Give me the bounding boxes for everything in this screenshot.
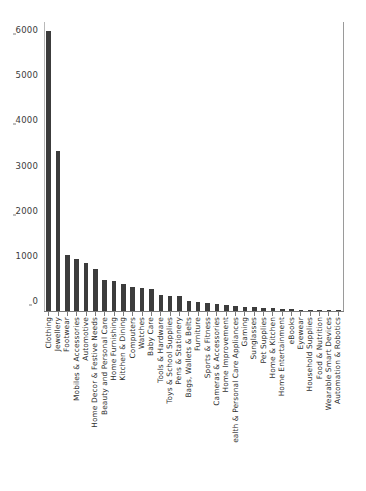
x-tick-mark	[170, 312, 171, 316]
x-tick	[91, 312, 100, 316]
x-tick-mark	[48, 312, 49, 316]
x-tick-label: Home & Kitchen	[269, 317, 276, 378]
bar	[252, 307, 257, 311]
bar	[308, 310, 313, 311]
x-label-slot: Pens & Stationery	[175, 317, 184, 487]
x-label-slot: Baby Care	[147, 317, 156, 487]
bar	[261, 308, 266, 311]
bar	[112, 281, 117, 311]
bar-item	[109, 22, 118, 311]
x-tick	[156, 312, 165, 316]
x-tick	[81, 312, 90, 316]
x-tick-label: Computers	[129, 317, 136, 359]
x-tick	[231, 312, 240, 316]
bar	[187, 301, 192, 311]
y-tick-label: 6000	[16, 25, 44, 35]
plot-area: 0100020003000400050006000	[44, 22, 343, 311]
x-tick	[203, 312, 212, 316]
x-tick-label: Baby Care	[148, 317, 155, 356]
x-tick-label: Bags, Wallets & Belts	[185, 317, 192, 398]
bar-item	[287, 22, 296, 311]
x-tick-label: Gaming	[241, 317, 248, 346]
x-tick-mark	[188, 312, 189, 316]
bar-item	[334, 22, 343, 311]
bar	[168, 296, 173, 311]
x-tick	[147, 312, 156, 316]
x-tick	[184, 312, 193, 316]
x-tick-label: eBooks	[288, 317, 295, 344]
bar	[289, 309, 294, 311]
x-tick-mark	[300, 312, 301, 316]
x-tick	[137, 312, 146, 316]
x-tick-label: Toys & School Supplies	[166, 317, 173, 404]
x-tick	[100, 312, 109, 316]
x-tick	[334, 312, 343, 316]
x-tick	[278, 312, 287, 316]
y-tick-mark	[29, 305, 32, 306]
x-tick-mark	[207, 312, 208, 316]
bar-item	[156, 22, 165, 311]
x-tick	[63, 312, 72, 316]
bar	[121, 284, 126, 311]
bar	[149, 289, 154, 311]
bar	[140, 288, 145, 311]
x-tick	[306, 312, 315, 316]
x-tick-mark	[160, 312, 161, 316]
bar	[224, 305, 229, 311]
y-tick-label: 2000	[16, 206, 44, 216]
x-label-slot: Home Improvement	[222, 317, 231, 487]
x-tick-label: Home Entertainment	[279, 317, 286, 396]
bar	[336, 310, 341, 311]
y-tick-label: 4000	[16, 115, 44, 125]
bar-item	[119, 22, 128, 311]
x-tick-mark	[132, 312, 133, 316]
x-tick-mark	[226, 312, 227, 316]
bar-item	[278, 22, 287, 311]
x-tick-label: Home Improvement	[223, 317, 230, 393]
x-tick-mark	[254, 312, 255, 316]
x-label-slot: Mobiles & Accessories	[72, 317, 81, 487]
bar-item	[128, 22, 137, 311]
bar-item	[231, 22, 240, 311]
x-tick-label: ealth & Personal Care Appliances	[232, 317, 239, 443]
bar-series	[44, 22, 343, 311]
x-label-slot: Automation & Robotics	[334, 317, 343, 487]
bar-item	[184, 22, 193, 311]
x-tick-mark	[67, 312, 68, 316]
bar-item	[63, 22, 72, 311]
x-tick-mark	[76, 312, 77, 316]
x-tick	[268, 312, 277, 316]
bar	[159, 295, 164, 311]
x-tick-mark	[95, 312, 96, 316]
bar	[56, 151, 61, 311]
x-label-slot: Sunglasses	[250, 317, 259, 487]
x-tick-label: Food & Nutrition	[316, 317, 323, 379]
x-tick-mark	[86, 312, 87, 316]
bar-item	[250, 22, 259, 311]
x-label-slot: ealth & Personal Care Appliances	[231, 317, 240, 487]
bar	[243, 307, 248, 311]
bar-item	[91, 22, 100, 311]
bar-item	[137, 22, 146, 311]
right-spine	[343, 22, 344, 312]
bar-item	[296, 22, 305, 311]
bar	[65, 255, 70, 311]
bar-chart-figure: 0100020003000400050006000 ClothingJewell…	[0, 0, 366, 491]
bar-item	[81, 22, 90, 311]
x-tick-mark	[179, 312, 180, 316]
x-label-slot: Wearable Smart Devices	[324, 317, 333, 487]
x-label-slot: Furniture	[194, 317, 203, 487]
x-tick	[72, 312, 81, 316]
bar-item	[315, 22, 324, 311]
x-tick-label: Automation & Robotics	[335, 317, 342, 404]
bar-item	[147, 22, 156, 311]
x-tick-label: Cameras & Accessories	[213, 317, 220, 406]
x-tick	[315, 312, 324, 316]
x-tick-mark	[198, 312, 199, 316]
x-tick	[165, 312, 174, 316]
x-tick	[296, 312, 305, 316]
x-tick-label: Household Supplies	[307, 317, 314, 392]
y-tick-label: 0	[32, 296, 44, 306]
bar	[46, 31, 51, 311]
x-tick-mark	[216, 312, 217, 316]
